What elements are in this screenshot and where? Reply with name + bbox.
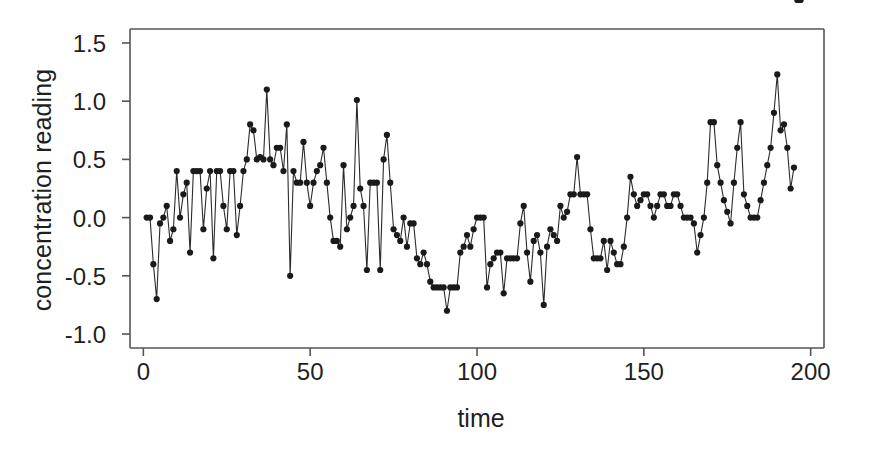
- data-point: [571, 191, 577, 197]
- data-point: [380, 156, 386, 162]
- data-point: [267, 156, 273, 162]
- data-point: [164, 203, 170, 209]
- data-point: [334, 238, 340, 244]
- data-point: [517, 220, 523, 226]
- y-tick-label: 1.0: [42, 88, 106, 116]
- data-point: [484, 284, 490, 290]
- x-tick-label: 100: [437, 358, 517, 386]
- data-point: [778, 127, 784, 133]
- data-point: [197, 168, 203, 174]
- data-point: [654, 203, 660, 209]
- data-point: [731, 180, 737, 186]
- data-point: [734, 145, 740, 151]
- data-point: [788, 185, 794, 191]
- data-point: [561, 215, 567, 221]
- data-point: [704, 180, 710, 186]
- data-point: [574, 154, 580, 160]
- data-point: [651, 215, 657, 221]
- data-point: [454, 284, 460, 290]
- y-axis-title: concentration reading: [22, 30, 62, 350]
- data-point: [764, 162, 770, 168]
- data-point: [557, 203, 563, 209]
- data-point: [727, 220, 733, 226]
- data-point: [397, 238, 403, 244]
- chart-figure: concentration reading time -1.0-0.50.00.…: [0, 0, 872, 458]
- data-point: [234, 232, 240, 238]
- data-point: [377, 267, 383, 273]
- data-point: [350, 203, 356, 209]
- data-point: [711, 119, 717, 125]
- data-point: [464, 232, 470, 238]
- data-point: [364, 267, 370, 273]
- data-point: [307, 203, 313, 209]
- data-point: [337, 244, 343, 250]
- data-point: [621, 244, 627, 250]
- data-point: [314, 168, 320, 174]
- data-point: [514, 255, 520, 261]
- data-point: [177, 215, 183, 221]
- data-point: [647, 203, 653, 209]
- data-point: [644, 191, 650, 197]
- data-series-concentration: [144, 0, 804, 314]
- data-point: [617, 261, 623, 267]
- data-point: [497, 249, 503, 255]
- data-point: [537, 249, 543, 255]
- data-point: [697, 232, 703, 238]
- data-point: [524, 249, 530, 255]
- data-point: [230, 168, 236, 174]
- data-point: [461, 244, 467, 250]
- y-tick-label: 1.5: [42, 30, 106, 58]
- data-point: [421, 249, 427, 255]
- data-point: [150, 261, 156, 267]
- data-point: [721, 197, 727, 203]
- data-point: [327, 215, 333, 221]
- data-point: [394, 232, 400, 238]
- data-point: [604, 267, 610, 273]
- data-point: [737, 119, 743, 125]
- data-point: [744, 203, 750, 209]
- plot-area: [0, 0, 872, 458]
- data-point: [527, 279, 533, 285]
- y-tick-label: 0.5: [42, 146, 106, 174]
- data-point: [347, 215, 353, 221]
- data-point: [210, 255, 216, 261]
- data-point: [344, 226, 350, 232]
- data-point: [160, 215, 166, 221]
- data-point: [417, 261, 423, 267]
- data-point: [687, 215, 693, 221]
- data-point: [531, 238, 537, 244]
- data-point: [601, 238, 607, 244]
- data-point: [534, 232, 540, 238]
- data-point: [320, 145, 326, 151]
- data-point: [627, 174, 633, 180]
- data-point: [774, 71, 780, 77]
- data-point: [768, 145, 774, 151]
- data-point: [714, 162, 720, 168]
- data-point: [457, 249, 463, 255]
- data-point: [304, 180, 310, 186]
- data-point: [154, 296, 160, 302]
- data-point: [250, 127, 256, 133]
- x-tick-label: 150: [604, 358, 684, 386]
- data-point: [374, 180, 380, 186]
- data-point: [247, 121, 253, 127]
- data-point: [411, 220, 417, 226]
- data-point: [354, 97, 360, 103]
- data-point: [270, 162, 276, 168]
- data-point: [287, 273, 293, 279]
- data-point: [551, 232, 557, 238]
- data-point: [147, 215, 153, 221]
- data-point: [667, 203, 673, 209]
- data-point: [220, 203, 226, 209]
- data-point: [701, 215, 707, 221]
- data-point: [340, 162, 346, 168]
- data-point: [611, 249, 617, 255]
- data-point: [491, 255, 497, 261]
- data-point: [244, 156, 250, 162]
- data-point: [587, 226, 593, 232]
- data-point: [481, 215, 487, 221]
- data-point: [677, 203, 683, 209]
- data-point: [541, 302, 547, 308]
- data-point: [554, 238, 560, 244]
- data-point: [300, 139, 306, 145]
